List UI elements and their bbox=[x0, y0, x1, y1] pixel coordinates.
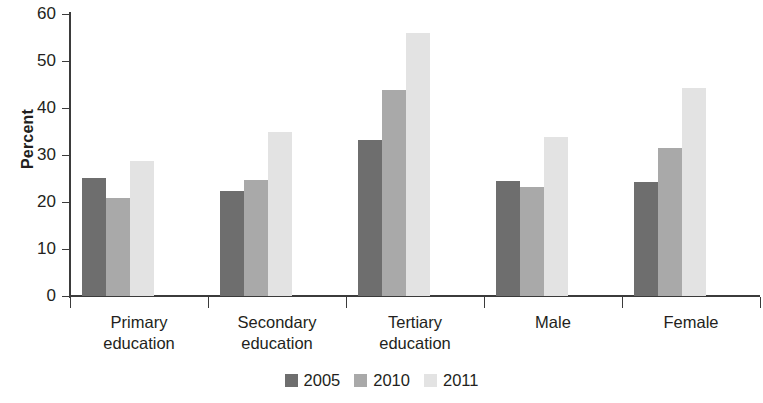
x-axis-category-label-line: Female bbox=[622, 312, 760, 333]
y-axis-tick bbox=[62, 155, 70, 156]
x-axis-category-label-line: Male bbox=[484, 312, 622, 333]
bar-2011-tertiary-education bbox=[406, 33, 430, 296]
bar-2010-primary-education bbox=[106, 198, 130, 296]
y-axis-tick-label: 10 bbox=[10, 240, 56, 257]
y-axis-tick-label: 60 bbox=[10, 5, 56, 22]
legend-label: 2005 bbox=[304, 372, 341, 389]
x-axis-category-label-line: Primary bbox=[70, 312, 208, 333]
y-axis-tick-label: 20 bbox=[10, 193, 56, 210]
bar-2011-female bbox=[682, 88, 706, 296]
legend-item-2005[interactable]: 2005 bbox=[285, 372, 341, 389]
legend-item-2010[interactable]: 2010 bbox=[354, 372, 410, 389]
x-axis-category-label-line: education bbox=[208, 333, 346, 354]
y-axis-tick-label: 0 bbox=[10, 287, 56, 304]
bar-chart: Percent 0102030405060 PrimaryeducationSe… bbox=[0, 0, 763, 403]
x-axis-category-label: Female bbox=[622, 312, 760, 333]
bar-2010-tertiary-education bbox=[382, 90, 406, 296]
legend-item-2011[interactable]: 2011 bbox=[424, 372, 478, 389]
bar-2010-secondary-education bbox=[244, 180, 268, 296]
bar-2011-male bbox=[544, 137, 568, 296]
bar-2010-female bbox=[658, 148, 682, 296]
x-axis-tick bbox=[484, 297, 485, 308]
x-axis-tick bbox=[70, 297, 71, 308]
bar-2005-male bbox=[496, 181, 520, 296]
y-axis-tick bbox=[62, 14, 70, 15]
x-axis-tick bbox=[346, 297, 347, 308]
y-axis-tick bbox=[62, 108, 70, 109]
bar-2011-primary-education bbox=[130, 161, 154, 296]
x-axis-category-label-line: Secondary bbox=[208, 312, 346, 333]
y-axis-tick bbox=[62, 202, 70, 203]
x-axis-category-label-line: Tertiary bbox=[346, 312, 484, 333]
y-axis-tick bbox=[62, 296, 70, 297]
x-axis-category-label: Male bbox=[484, 312, 622, 333]
y-axis-tick-label: 30 bbox=[10, 146, 56, 163]
y-axis-tick bbox=[62, 61, 70, 62]
bar-2011-secondary-education bbox=[268, 132, 292, 297]
bar-2005-female bbox=[634, 182, 658, 296]
x-axis-category-label-line: education bbox=[346, 333, 484, 354]
legend: 200520102011 bbox=[0, 372, 763, 389]
y-axis-tick bbox=[62, 249, 70, 250]
y-axis-tick-label: 50 bbox=[10, 52, 56, 69]
legend-swatch-icon bbox=[285, 374, 298, 387]
bar-2005-secondary-education bbox=[220, 191, 244, 296]
y-axis-tick-label: 40 bbox=[10, 99, 56, 116]
legend-label: 2010 bbox=[373, 372, 410, 389]
bar-2010-male bbox=[520, 187, 544, 296]
plot-area bbox=[70, 14, 760, 296]
bar-2005-tertiary-education bbox=[358, 140, 382, 297]
x-axis-category-label-line: education bbox=[70, 333, 208, 354]
bar-2005-primary-education bbox=[82, 178, 106, 296]
legend-swatch-icon bbox=[424, 374, 437, 387]
x-axis-tick bbox=[760, 297, 761, 308]
x-axis-tick bbox=[208, 297, 209, 308]
legend-label: 2011 bbox=[443, 372, 478, 389]
legend-swatch-icon bbox=[354, 374, 367, 387]
x-axis-category-label: Secondaryeducation bbox=[208, 312, 346, 354]
x-axis-tick bbox=[622, 297, 623, 308]
x-axis-category-label: Tertiaryeducation bbox=[346, 312, 484, 354]
x-axis-category-label: Primaryeducation bbox=[70, 312, 208, 354]
